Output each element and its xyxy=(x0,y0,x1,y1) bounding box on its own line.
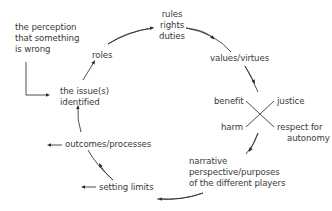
narrative-line-3: of the different players xyxy=(189,178,285,189)
values-line-1: values/virtues xyxy=(210,53,269,64)
autonomy-line-2: autonomy xyxy=(277,133,330,144)
rules-to-values-arrow xyxy=(186,28,231,52)
issue-line-2: identified xyxy=(60,97,109,108)
trigger-line-3: is wrong xyxy=(15,44,79,55)
node-issue-identified: the issue(s) identified xyxy=(60,86,109,108)
trigger-to-issue-arrow xyxy=(26,62,48,95)
issue-to-roles-arrow xyxy=(83,62,94,80)
roles-line-1: roles xyxy=(92,50,112,61)
principle-justice: justice xyxy=(277,96,304,107)
trigger-line-1: the perception xyxy=(15,22,79,33)
narrative-line-2: perspective/purposes xyxy=(189,167,285,178)
node-setting-limits: setting limits xyxy=(99,182,154,193)
principles-cross xyxy=(246,101,274,127)
node-narrative-perspective: narrative perspective/purposes of the di… xyxy=(189,156,285,190)
narrative-line-1: narrative xyxy=(189,156,285,167)
rules-line-1: rules xyxy=(152,9,192,20)
principle-respect-for-autonomy: respect for autonomy xyxy=(277,122,330,144)
rules-line-3: duties xyxy=(152,31,192,42)
node-values-virtues: values/virtues xyxy=(210,53,269,64)
limits-line-1: setting limits xyxy=(99,182,154,193)
trigger-line-2: that something xyxy=(15,33,79,44)
principle-benefit: benefit xyxy=(214,96,244,107)
rules-line-2: rights xyxy=(152,20,192,31)
node-outcomes-processes: outcomes/processes xyxy=(65,139,151,150)
principles-to-narrative-arrow xyxy=(246,133,258,154)
trigger-text: the perception that something is wrong xyxy=(15,22,79,56)
principle-harm: harm xyxy=(221,122,243,133)
autonomy-line-1: respect for xyxy=(277,122,330,133)
node-roles: roles xyxy=(92,50,112,61)
node-rules-rights-duties: rules rights duties xyxy=(152,9,192,43)
outcomes-to-issue-arrow xyxy=(78,107,81,132)
outcomes-line-1: outcomes/processes xyxy=(65,139,151,150)
issue-line-1: the issue(s) xyxy=(60,86,109,97)
roles-to-rules-arrow xyxy=(108,28,152,44)
